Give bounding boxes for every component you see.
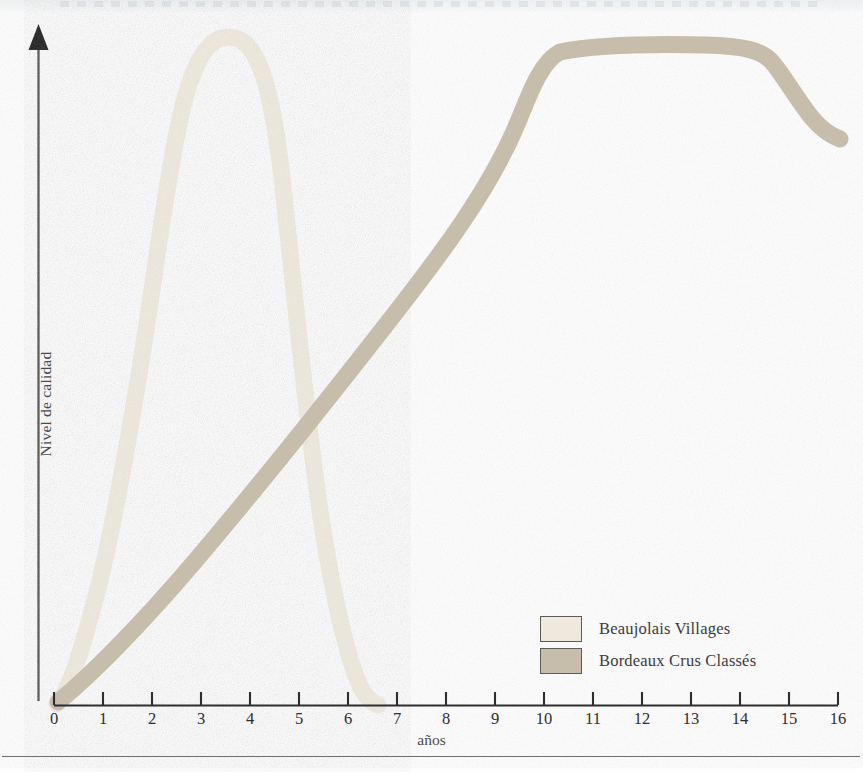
x-tick-label: 5	[284, 709, 314, 729]
x-tick-label: 6	[333, 709, 363, 729]
page-bottom-rule	[2, 756, 860, 757]
x-tick-label: 14	[725, 709, 755, 729]
x-tick-label: 9	[480, 709, 510, 729]
x-tick-label: 1	[88, 709, 118, 729]
chart-page: 0 1 2 3 4 5 6 7 8 9 10 11 12 13 14 15 16…	[0, 0, 863, 774]
legend-label: Beaujolais Villages	[599, 619, 730, 639]
legend-item-beaujolais-villages: Beaujolais Villages	[540, 613, 756, 645]
x-axis-title: años	[0, 731, 863, 749]
x-axis	[54, 692, 838, 706]
x-tick-label: 11	[578, 709, 608, 729]
x-tick-label: 8	[431, 709, 461, 729]
x-tick-label: 0	[39, 709, 69, 729]
legend-label: Bordeaux Crus Classés	[599, 651, 756, 671]
x-tick-label: 3	[186, 709, 216, 729]
series-line-beaujolais-villages	[57, 37, 378, 705]
x-tick-label: 7	[382, 709, 412, 729]
legend-item-bordeaux-crus-classes: Bordeaux Crus Classés	[540, 645, 756, 677]
x-axis-ticks	[54, 692, 838, 705]
y-axis-arrow-icon	[29, 24, 49, 50]
x-tick-label: 2	[137, 709, 167, 729]
x-tick-label: 16	[823, 709, 853, 729]
y-axis-title: Nivel de calidad	[37, 304, 55, 504]
x-tick-label: 13	[676, 709, 706, 729]
x-tick-label: 10	[529, 709, 559, 729]
legend-swatch-bordeaux-crus-classes	[540, 648, 582, 674]
x-tick-label: 15	[774, 709, 804, 729]
x-tick-label: 4	[235, 709, 265, 729]
legend-swatch-beaujolais-villages	[540, 616, 582, 642]
chart-legend: Beaujolais Villages Bordeaux Crus Classé…	[540, 613, 756, 677]
x-tick-label: 12	[627, 709, 657, 729]
